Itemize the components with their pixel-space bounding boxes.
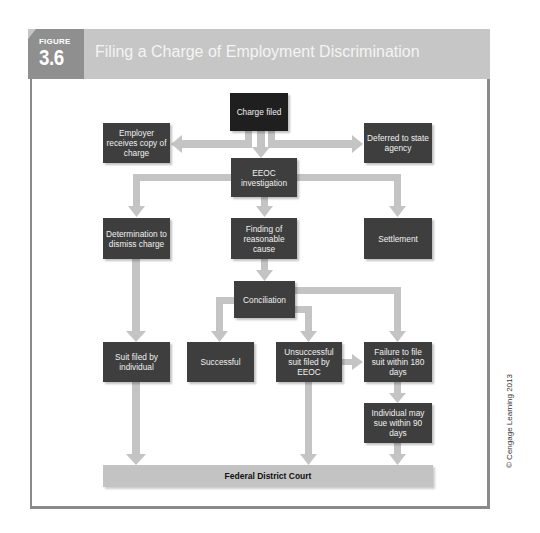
arrow-eeoc-to-finding [256,197,273,217]
arrow-eeoc-right-bar [297,174,401,181]
arrow-unsuccessful-to-court [300,382,317,465]
arrow-conciliation-to-unsuccessful [295,306,317,342]
arrow-individual-to-court [389,443,406,465]
node-deferred-state-agency: Deferred to state agency [364,123,432,163]
arrow-charge-to-eeoc [252,131,270,158]
node-successful: Successful [187,342,254,382]
arrow-determination-to-suit [126,259,146,342]
node-charge-filed: Charge filed [230,93,288,131]
arrow-conciliation-to-successful [211,297,234,342]
node-federal-district-court: Federal District Court [103,465,433,487]
node-individual-90-days: Individual may sue within 90 days [364,403,432,443]
arrow-finding-to-conciliation [256,259,273,281]
arrow-charge-to-employer [171,131,252,153]
node-conciliation: Conciliation [234,281,295,318]
arrow-failure-to-individual [389,382,406,403]
node-settlement: Settlement [364,218,432,259]
arrow-eeoc-left-bar [133,174,231,181]
node-eeoc-investigation: EEOC investigation [231,158,297,197]
arrow-suit-to-court [126,382,146,465]
flow-arrows [0,0,540,533]
node-failure-180-days: Failure to file suit within 180 days [364,342,432,382]
node-suit-filed-individual: Suit filed by individual [103,342,170,382]
node-determination-dismiss: Determination to dismiss charge [103,218,170,259]
node-employer-receives-copy: Employer receives copy of charge [103,123,170,163]
arrow-unsuccessful-to-failure [342,354,363,370]
node-finding-reasonable-cause: Finding of reasonable cause [231,218,297,259]
copyright-notice: © Cengage Learning 2013 [505,374,514,468]
node-unsuccessful-suit-eeoc: Unsuccessful suit filed by EEOC [276,342,342,382]
arrow-charge-to-deferred [268,131,363,153]
